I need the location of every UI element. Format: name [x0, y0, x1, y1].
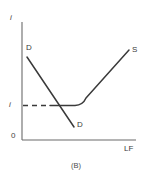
demand-curve-label-upper: D — [26, 44, 32, 52]
demand-curve — [27, 57, 74, 127]
y-axis-label: i — [10, 14, 12, 22]
plot-area — [0, 0, 144, 181]
origin-label: 0 — [11, 132, 15, 140]
demand-curve-label-lower: D — [77, 121, 83, 129]
loanable-funds-diagram: i i D D S LF 0 (B) — [0, 0, 144, 181]
interest-rate-tick-label: i — [9, 101, 11, 109]
supply-curve-label: S — [132, 46, 137, 54]
supply-curve — [50, 50, 129, 106]
x-axis-label: LF — [124, 145, 133, 153]
figure-caption: (B) — [71, 162, 81, 170]
